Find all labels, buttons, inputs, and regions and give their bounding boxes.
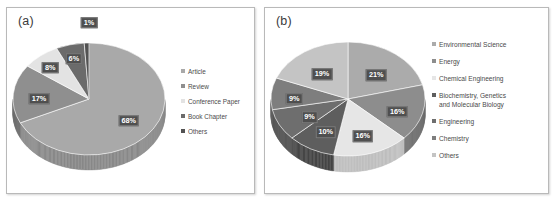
pie-chart-b: 21%16%16%10%9%9%19% [265, 11, 430, 191]
pie-slice-label: 21% [366, 70, 387, 82]
legend-swatch-icon [432, 42, 436, 46]
pie-slice-label: 9% [301, 111, 318, 123]
legend-label: Biochemistry, Genetics and Molecular Bio… [439, 92, 506, 108]
legend-swatch-icon [181, 129, 185, 133]
legend-swatch-icon [432, 153, 436, 157]
pie-slice-label: 8% [42, 62, 59, 74]
legend-swatch-icon [432, 59, 436, 63]
legend-item[interactable]: Conference Paper [181, 98, 254, 106]
legend-item[interactable]: Chemistry [432, 135, 548, 143]
panel-divider [255, 7, 264, 194]
legend-a: Article Review Conference Paper Book Cha… [179, 66, 254, 136]
legend-item[interactable]: Environmental Science [432, 41, 548, 49]
legend-swatch-icon [432, 76, 436, 80]
pie-chart-a: 68%17%8%6%1% [7, 11, 179, 191]
legend-item[interactable]: Review [181, 83, 254, 91]
pie-slice-label: 6% [66, 53, 83, 65]
legend-label: Chemistry [439, 135, 469, 143]
legend-item[interactable]: Chemical Engineering [432, 75, 548, 83]
legend-label: Others [439, 152, 459, 160]
legend-label: Energy [439, 58, 460, 66]
legend-label: Environmental Science [439, 41, 506, 49]
legend-label: Engineering [439, 118, 474, 126]
legend-b: Environmental Science Energy Chemical En… [430, 41, 548, 161]
legend-item[interactable]: Book Chapter [181, 113, 254, 121]
pie-slice-label: 10% [315, 127, 336, 139]
pie-slice-label: 1% [81, 17, 98, 29]
legend-swatch-icon [432, 119, 436, 123]
panel-a: (a) 68%17%8%6%1% Article Review Conferen… [6, 7, 255, 194]
pie-slice-label: 16% [352, 130, 373, 142]
legend-swatch-icon [432, 136, 436, 140]
legend-label: Book Chapter [188, 113, 227, 121]
legend-label: Review [188, 83, 209, 91]
pie-slice-label: 68% [118, 115, 139, 127]
legend-item[interactable]: Others [181, 128, 254, 136]
pie-slice-label: 17% [29, 93, 50, 105]
legend-item[interactable]: Energy [432, 58, 548, 66]
legend-swatch-icon [181, 99, 185, 103]
legend-label: Conference Paper [188, 98, 240, 106]
legend-swatch-icon [432, 93, 436, 97]
legend-swatch-icon [181, 114, 185, 118]
legend-swatch-icon [181, 84, 185, 88]
pie-slice-label: 19% [312, 68, 333, 80]
legend-label: Others [188, 128, 207, 136]
legend-label: Article [188, 68, 206, 76]
legend-item[interactable]: Article [181, 68, 254, 76]
pie-slice-label: 16% [387, 106, 408, 118]
legend-swatch-icon [181, 69, 185, 73]
pie-slice-label: 9% [286, 93, 303, 105]
legend-item[interactable]: Biochemistry, Genetics and Molecular Bio… [432, 92, 548, 108]
legend-item[interactable]: Others [432, 152, 548, 160]
panel-b: (b) 21%16%16%10%9%9%19% Environmental Sc… [264, 7, 549, 194]
legend-label: Chemical Engineering [439, 75, 504, 83]
figure-root: (a) 68%17%8%6%1% Article Review Conferen… [0, 0, 558, 203]
legend-item[interactable]: Engineering [432, 118, 548, 126]
